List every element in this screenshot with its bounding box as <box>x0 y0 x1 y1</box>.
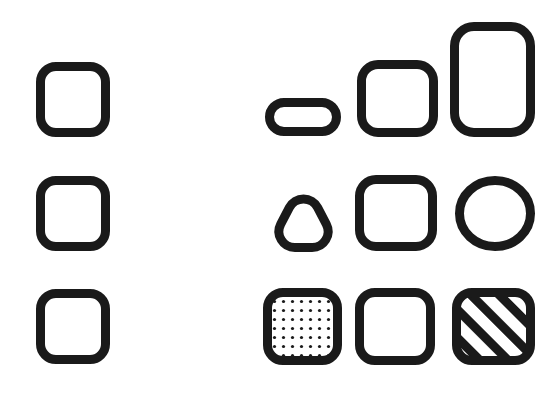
circle[interactable] <box>460 181 531 247</box>
rounded-square-hatched[interactable] <box>457 293 531 361</box>
rounded-square-dotted[interactable] <box>268 293 338 361</box>
rounded-rect-tall[interactable] <box>455 27 531 133</box>
pill-small[interactable] <box>270 103 337 132</box>
row-size <box>41 27 531 133</box>
shape-diagram <box>0 0 560 397</box>
rounded-square-medium[interactable] <box>362 65 434 133</box>
reference-rounded-square-bottom[interactable] <box>41 294 106 360</box>
row-shape <box>41 180 531 248</box>
figure-canvas <box>0 0 560 397</box>
row-fill <box>41 293 531 361</box>
rounded-triangle[interactable] <box>279 199 328 247</box>
reference-rounded-square-top[interactable] <box>41 67 106 133</box>
rounded-square-plain[interactable] <box>360 180 433 247</box>
rounded-square-empty[interactable] <box>360 293 431 361</box>
reference-rounded-square-middle[interactable] <box>41 181 106 247</box>
